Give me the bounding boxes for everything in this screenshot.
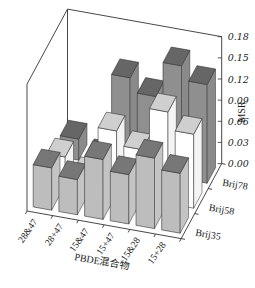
x-tick-label: 28+47 [43,222,65,248]
row-tick-mark [195,214,199,215]
z-tick-label: 0.03 [228,137,249,148]
bar3d-chart: 0.000.030.060.090.120.150.18 28&4728+471… [0,0,255,288]
x-tick-mark [180,239,182,242]
bar-front-face [162,170,181,233]
bar-side-face [207,69,215,183]
bar-front-face [110,171,129,224]
x-tick-label: 15+47 [94,231,116,257]
row-tick-mark [222,164,226,165]
x-tick-mark [154,234,156,237]
bar-Brij35-15&28 [136,139,163,228]
bar-Brij35-15&47 [85,141,112,220]
bar-front-face [85,156,104,219]
back-wall-top-edge [68,9,222,37]
x-tick-label: 15&47 [68,226,91,254]
x-tick-mark [25,211,27,214]
bar-front-face [33,165,52,211]
z-tick-label: 0.18 [228,31,249,42]
bar-Brij35-15+28 [162,155,189,234]
z-axis: 0.000.030.060.090.120.150.18 [218,31,249,169]
bars [33,47,215,233]
bar-Brij35-15+47 [110,156,137,224]
bar-front-face [136,155,155,229]
x-tick-mark [51,216,53,219]
row-label: Brij35 [195,227,222,242]
left-wall-top-edge [27,9,68,84]
bar-Brij35-28+47 [59,161,86,215]
x-tick-mark [77,220,79,223]
bar-Brij35-28&47 [33,149,60,210]
row-label: Brij58 [208,202,235,217]
z-tick-label: 0.12 [228,74,249,85]
x-tick-label: 28&47 [16,217,39,245]
z-tick-label: 0.00 [228,158,249,169]
row-tick-mark [181,239,185,240]
z-axis-title: MSR [236,101,247,122]
row-tick-mark [208,189,212,190]
bar-front-face [59,176,78,215]
x-tick-mark [128,229,130,232]
x-tick-label: 15+28 [146,240,168,266]
x-tick-mark [102,225,104,228]
z-tick-label: 0.15 [228,52,249,63]
row-labels: Brij35Brij58Brij78 [195,177,249,242]
row-label: Brij78 [222,177,249,192]
